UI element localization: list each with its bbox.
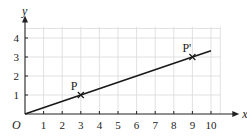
point-label: P	[71, 79, 78, 93]
x-tick-label: 1	[41, 119, 47, 131]
data-points: PP'	[71, 41, 196, 98]
y-tick-label: 4	[14, 32, 20, 44]
x-tick-label: 8	[171, 119, 177, 131]
y-tick-label: 2	[14, 70, 20, 82]
x-tick-label: 2	[59, 119, 65, 131]
x-tick-label: 6	[134, 119, 140, 131]
grid-lines	[25, 27, 220, 114]
x-tick-label: 7	[152, 119, 158, 131]
y-tick-label: 3	[14, 51, 20, 63]
y-tick-label: 1	[14, 89, 20, 101]
y-axis-label: y	[21, 4, 28, 18]
chart-svg: 123456789101234 PP' x y O	[0, 0, 247, 139]
point-label: P'	[182, 41, 191, 55]
x-tick-label: 9	[190, 119, 196, 131]
axes	[22, 16, 239, 117]
x-tick-label: 5	[115, 119, 121, 131]
x-tick-label: 4	[97, 119, 103, 131]
x-tick-label: 10	[206, 119, 218, 131]
origin-label: O	[12, 118, 21, 132]
x-axis-label: x	[241, 107, 247, 121]
x-axis-arrow-icon	[232, 111, 239, 117]
x-tick-label: 3	[78, 119, 84, 131]
chart-container: 123456789101234 PP' x y O	[0, 0, 247, 139]
